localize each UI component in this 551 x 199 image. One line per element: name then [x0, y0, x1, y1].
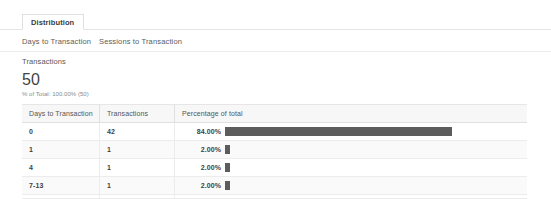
tab-distribution[interactable]: Distribution	[22, 14, 84, 30]
table-row[interactable]: 112.00%	[22, 141, 527, 159]
cell-transactions: 1	[100, 159, 175, 176]
column-header-days-to-transaction[interactable]: Days to Transaction	[22, 105, 100, 122]
column-header-transactions[interactable]: Transactions	[100, 105, 175, 122]
metric-value: 50	[22, 70, 242, 89]
metric-percent-of-total: % of Total: 100.00% (50)	[22, 90, 242, 98]
percentage-bar	[225, 181, 230, 190]
subtab-strip: Days to Transaction Sessions to Transact…	[0, 34, 551, 52]
metric-summary: Transactions 50 % of Total: 100.00% (50)	[22, 57, 242, 98]
percentage-bar	[225, 145, 230, 154]
cell-percentage-of-total: 2.00%	[175, 177, 527, 194]
cell-transactions: 42	[100, 123, 175, 140]
cell-percentage-of-total: 2.00%	[175, 141, 527, 158]
subtab-days-to-transaction[interactable]: Days to Transaction	[22, 36, 91, 47]
percentage-label: 2.00%	[175, 177, 221, 194]
distribution-table: Days to Transaction Transactions Percent…	[22, 104, 527, 199]
cell-percentage-of-total: 2.00%	[175, 159, 527, 176]
percentage-label: 2.00%	[175, 141, 221, 158]
table-bottom-divider	[22, 198, 527, 199]
cell-percentage-of-total: 84.00%	[175, 123, 527, 140]
table-header-row: Days to Transaction Transactions Percent…	[22, 105, 527, 123]
percentage-label: 2.00%	[175, 159, 221, 176]
subtab-sessions-to-transaction[interactable]: Sessions to Transaction	[99, 36, 182, 47]
percentage-label: 84.00%	[175, 123, 221, 140]
percentage-bar	[225, 127, 452, 136]
table-row[interactable]: 412.00%	[22, 159, 527, 177]
cell-days-to-transaction: 4	[22, 159, 100, 176]
metric-label: Transactions	[22, 57, 242, 67]
cell-days-to-transaction: 7-13	[22, 177, 100, 194]
tab-strip: Distribution	[0, 14, 551, 30]
cell-transactions: 1	[100, 177, 175, 194]
table-row[interactable]: 04284.00%	[22, 123, 527, 141]
table-row[interactable]: 7-1312.00%	[22, 177, 527, 195]
column-header-percentage-of-total[interactable]: Percentage of total	[175, 105, 527, 122]
distribution-report-panel: Distribution Days to Transaction Session…	[0, 0, 551, 199]
cell-transactions: 1	[100, 141, 175, 158]
percentage-bar	[225, 163, 230, 172]
cell-days-to-transaction: 0	[22, 123, 100, 140]
cell-days-to-transaction: 1	[22, 141, 100, 158]
